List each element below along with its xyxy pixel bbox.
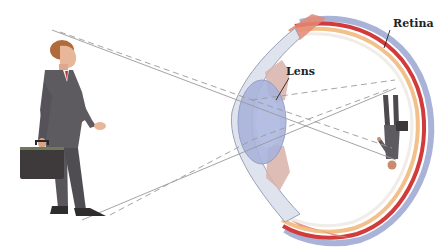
standing-businessman-with-briefcase xyxy=(20,40,106,216)
eye-outer-layer xyxy=(285,19,431,243)
lens-inner xyxy=(256,96,280,148)
retina-label: Retina xyxy=(393,18,434,29)
ray-head-dashed xyxy=(60,32,392,148)
eye-image-formation-diagram xyxy=(0,0,446,250)
ray-head-solid xyxy=(52,30,396,160)
lens-label: Lens xyxy=(286,66,315,77)
